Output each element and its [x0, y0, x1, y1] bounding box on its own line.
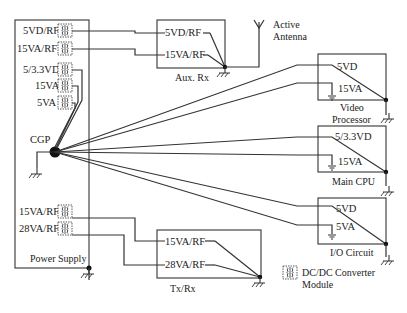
txrx-input-28va-rf: 28VA/RF — [165, 259, 205, 270]
dcdc-converter-icon — [58, 205, 72, 218]
txrx-label: Tx/Rx — [170, 283, 196, 294]
ground-icon — [29, 168, 42, 178]
legend-label-1: DC/DC Converter — [302, 267, 376, 278]
ps-output-15va-rf-2: 15VA/RF — [19, 206, 59, 217]
signal-ground-icon — [328, 166, 336, 170]
txrx-input-15va-rf: 15VA/RF — [165, 236, 205, 247]
transformer-icon — [283, 266, 297, 279]
io-input-5va: 5VA — [336, 221, 355, 232]
dcdc-converter-icon — [58, 42, 72, 55]
video-input-15va: 15VA — [338, 83, 363, 94]
aux-rx-block: Aux. Rx 5VD/RF 15VA/RF — [157, 20, 230, 83]
antenna-label-2: Antenna — [273, 31, 307, 42]
cgp-label: CGP — [30, 134, 51, 145]
cpu-label: Main CPU — [332, 176, 376, 187]
cpu-input-15va: 15VA — [338, 156, 363, 167]
power-supply-label: Power Supply — [30, 253, 86, 264]
dcdc-converter-icon — [58, 63, 72, 76]
ps-output-15va-rf: 15VA/RF — [17, 43, 57, 54]
dcdc-converter-icon — [58, 24, 72, 37]
io-label: I/O Circuit — [330, 247, 374, 258]
ps-output-5vd-rf: 5VD/RF — [23, 25, 59, 36]
aux-rx-input-5vd-rf: 5VD/RF — [165, 27, 201, 38]
diagram: Power Supply 5VD/RF 15VA/RF 5/3.3VD 15VA… — [0, 0, 407, 313]
antenna-label-1: Active — [273, 19, 300, 30]
ground-icon — [381, 186, 394, 196]
ps-output-5va: 5VA — [37, 97, 56, 108]
ground-icon — [381, 255, 394, 265]
video-label-2: Processor — [332, 114, 372, 125]
active-antenna: Active Antenna — [225, 19, 307, 67]
ps-output-28va-rf: 28VA/RF — [19, 223, 59, 234]
signal-ground-icon — [328, 96, 336, 100]
cpu-input-5-3-3vd: 5/3.3VD — [335, 131, 372, 142]
main-cpu-block: 5/3.3VD 15VA Main CPU — [55, 126, 394, 196]
aux-rx-label: Aux. Rx — [175, 72, 209, 83]
legend-label-2: Module — [302, 279, 334, 290]
video-label-1: Video — [340, 102, 364, 113]
io-input-5vd: 5VD — [336, 203, 357, 214]
dcdc-converter-icon — [58, 222, 72, 235]
legend: DC/DC Converter Module — [283, 266, 376, 290]
ps-output-5-3-3vd: 5/3.3VD — [23, 64, 60, 75]
ground-icon — [381, 113, 394, 123]
signal-ground-icon — [328, 235, 336, 239]
dcdc-converter-icon — [58, 79, 72, 92]
ps-output-15va: 15VA — [35, 80, 60, 91]
tx-rx-block: 15VA/RF 28VA/RF Tx/Rx — [157, 230, 265, 294]
dcdc-converter-icon — [58, 96, 72, 109]
aux-rx-input-15va-rf: 15VA/RF — [165, 49, 205, 60]
